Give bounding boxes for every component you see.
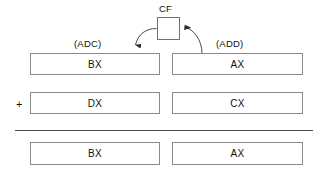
add-operation-label: (ADD) [216,38,243,49]
carry-in-arrow [136,29,157,46]
register-box-bx-operand: BX [30,53,160,75]
register-box-cx-addend: CX [172,92,303,114]
register-box-dx-addend: DX [30,92,160,114]
carry-out-arrow [185,28,202,54]
register-box-bx-result: BX [30,142,160,165]
adc-operation-label: (ADC) [74,38,101,49]
plus-operator: + [16,99,22,110]
carry-flag-addition-diagram: CF (ADC) (ADD) BX AX + DX CX BX AX [0,0,326,179]
register-box-ax-operand: AX [172,53,303,75]
register-box-ax-result: AX [172,142,303,165]
